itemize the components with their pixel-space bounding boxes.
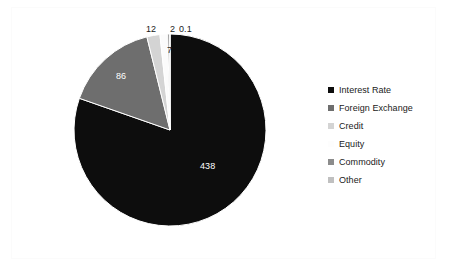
legend-item-label: Interest Rate bbox=[339, 85, 391, 95]
legend-swatch-icon bbox=[328, 87, 334, 93]
slice-value-credit: 12 bbox=[146, 25, 156, 34]
legend-item-interest-rate[interactable]: Interest Rate bbox=[328, 81, 443, 99]
legend-item-label: Foreign Exchange bbox=[339, 103, 413, 113]
legend-swatch-icon bbox=[328, 123, 334, 129]
slice-value-equity: 7 bbox=[167, 46, 172, 55]
legend-item-equity[interactable]: Equity bbox=[328, 135, 443, 153]
legend-swatch-icon bbox=[328, 141, 334, 147]
legend-item-commodity[interactable]: Commodity bbox=[328, 153, 443, 171]
slice-value-foreign-exchange: 86 bbox=[116, 72, 126, 81]
legend-swatch-icon bbox=[328, 105, 334, 111]
legend-item-label: Equity bbox=[339, 139, 364, 149]
slice-value-other: 0.1 bbox=[179, 25, 192, 34]
legend-item-label: Commodity bbox=[339, 157, 385, 167]
legend-swatch-icon bbox=[328, 177, 334, 183]
legend-item-foreign-exchange[interactable]: Foreign Exchange bbox=[328, 99, 443, 117]
pie-slice-group bbox=[74, 34, 266, 226]
legend-item-credit[interactable]: Credit bbox=[328, 117, 443, 135]
slice-value-commodity: 2 bbox=[170, 25, 175, 34]
legend-item-other[interactable]: Other bbox=[328, 171, 443, 189]
legend-swatch-icon bbox=[328, 159, 334, 165]
slice-value-interest-rate: 438 bbox=[200, 162, 215, 171]
legend-item-label: Other bbox=[339, 175, 362, 185]
pie-graphic: 438 86 12 7 2 0.1 bbox=[60, 20, 280, 240]
legend-item-label: Credit bbox=[339, 121, 363, 131]
pie-chart-figure: 438 86 12 7 2 0.1 Interest Rate Foreign … bbox=[0, 0, 449, 269]
legend: Interest Rate Foreign Exchange Credit Eq… bbox=[328, 81, 443, 189]
